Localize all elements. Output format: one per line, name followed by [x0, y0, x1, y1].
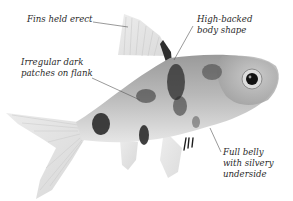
annotation-high-backed-body: High-backed body shape	[197, 14, 252, 36]
pectoral-fin	[184, 138, 193, 150]
annotation-line: patches on flank	[21, 68, 93, 79]
leader-line-body	[174, 26, 193, 60]
anal-fin	[120, 140, 138, 170]
annotation-line: underside	[223, 169, 274, 180]
annotation-line: Fins held erect	[27, 14, 93, 25]
annotation-fins-held-erect: Fins held erect	[27, 14, 93, 25]
tail-fin	[6, 113, 84, 199]
fish-eye	[242, 69, 262, 89]
dorsal-fin	[118, 14, 172, 64]
annotation-line: with silvery	[223, 158, 274, 169]
annotated-fish-figure: Fins held erect High-backed body shape I…	[0, 0, 293, 201]
annotation-line: Irregular dark	[21, 57, 93, 68]
annotation-line: Full belly	[223, 147, 274, 158]
annotation-irregular-dark-patches: Irregular dark patches on flank	[21, 57, 93, 79]
annotation-full-belly: Full belly with silvery underside	[223, 147, 274, 180]
annotation-line: High-backed	[197, 14, 252, 25]
leader-line-belly	[210, 128, 221, 152]
annotation-line: body shape	[197, 25, 252, 36]
